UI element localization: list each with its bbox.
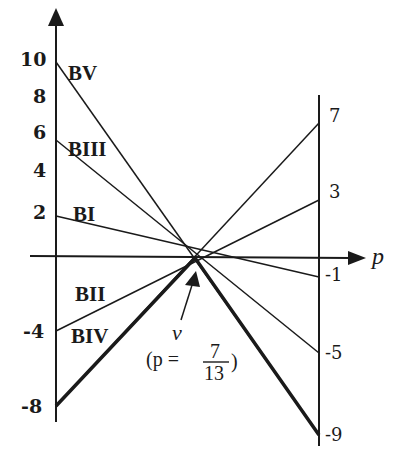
right-tick-m9: -9 — [325, 424, 343, 445]
right-tick-m1: -1 — [325, 264, 343, 285]
fraction-numerator: 7 — [210, 340, 220, 362]
fraction-denominator: 13 — [204, 362, 224, 384]
up-arrow-icon — [48, 8, 64, 26]
label-BIV: BIV — [71, 324, 108, 348]
annotation-arrow-shaft — [181, 282, 193, 320]
right-tick-m5: -5 — [325, 342, 343, 363]
right-tick-7: 7 — [329, 105, 340, 126]
left-tick-m4: -4 — [23, 320, 44, 342]
label-BII: BII — [75, 282, 105, 306]
label-BV: BV — [68, 61, 97, 85]
left-tick-6: 6 — [33, 121, 46, 143]
left-tick-2: 2 — [33, 201, 46, 223]
left-tick-10: 10 — [20, 48, 46, 70]
left-tick-m8: -8 — [21, 395, 42, 417]
left-tick-4: 4 — [33, 159, 46, 181]
p-axis-label: p — [370, 243, 384, 269]
close-paren: ) — [231, 350, 238, 373]
right-arrow-icon — [348, 251, 366, 265]
payoff-chart: p 10 8 6 4 2 -4 -8 7 3 -1 -5 -9 BV BIII … — [0, 0, 401, 449]
p-equals-label: (p = — [146, 348, 179, 371]
right-tick-3: 3 — [329, 181, 340, 202]
left-tick-8: 8 — [33, 85, 46, 107]
label-BI: BI — [73, 202, 95, 226]
annotation-arrowhead-icon — [185, 271, 200, 287]
label-BIII: BIII — [68, 137, 107, 161]
nu-label: ν — [172, 320, 182, 345]
p-axis — [30, 256, 352, 258]
